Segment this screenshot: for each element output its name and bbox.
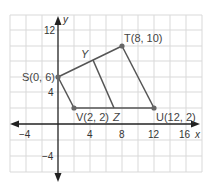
label-u: U(12, 2) bbox=[156, 111, 196, 123]
y-axis-label: y bbox=[62, 14, 69, 25]
label-s: S(0, 6) bbox=[22, 71, 55, 83]
x-axis-label: x bbox=[194, 129, 201, 140]
label-y: Y bbox=[81, 48, 89, 60]
y-tick-12: 12 bbox=[44, 25, 56, 36]
point-u bbox=[151, 105, 156, 110]
x-tick-4: 4 bbox=[87, 129, 93, 140]
x-tick-8: 8 bbox=[119, 129, 125, 140]
y-tick-neg4: −4 bbox=[42, 151, 54, 162]
x-tick-16: 16 bbox=[179, 129, 191, 140]
point-t bbox=[119, 43, 124, 48]
coordinate-plane: y x −4 4 8 12 16 12 4 −4 S(0, 6) T(8, 10… bbox=[0, 0, 214, 191]
x-axis-arrow-left-icon bbox=[10, 121, 19, 128]
x-tick-12: 12 bbox=[148, 129, 160, 140]
y-tick-4: 4 bbox=[48, 87, 54, 98]
label-v: V(2, 2) bbox=[76, 111, 109, 123]
grid bbox=[10, 15, 202, 172]
segment-yz bbox=[93, 60, 114, 108]
point-s bbox=[55, 74, 60, 79]
point-v bbox=[71, 105, 76, 110]
x-tick-neg4: −4 bbox=[19, 129, 31, 140]
label-z: Z bbox=[112, 111, 121, 123]
label-t: T(8, 10) bbox=[124, 32, 163, 44]
y-axis-arrow-up-icon bbox=[55, 16, 62, 25]
y-axis-arrow-down-icon bbox=[55, 173, 62, 182]
